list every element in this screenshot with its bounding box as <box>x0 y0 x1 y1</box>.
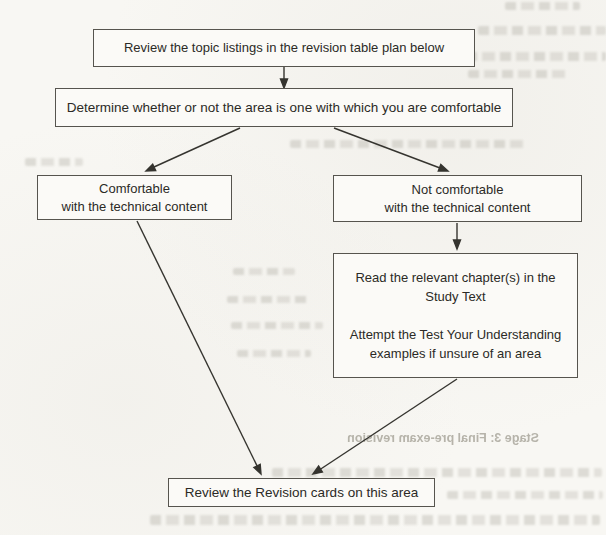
flow-node-not-comfortable: Not comfortable with the technical conte… <box>333 175 582 222</box>
flow-node-label-line: Attempt the Test Your Understanding <box>350 325 562 344</box>
flow-node-review-revision-cards: Review the Revision cards on this area <box>168 478 435 507</box>
arrow-read-to-cards <box>320 379 457 470</box>
flow-node-label: Determine whether or not the area is one… <box>67 99 501 117</box>
flow-node-label-line: Not comfortable <box>412 181 504 199</box>
arrow-determine-to-comfortable <box>154 128 240 167</box>
arrow-determine-to-not-comfortable <box>334 128 440 168</box>
flow-node-comfortable: Comfortable with the technical content <box>37 175 232 220</box>
flow-node-label: Review the topic listings in the revisio… <box>124 39 444 57</box>
flow-node-determine-comfortable: Determine whether or not the area is one… <box>55 88 513 127</box>
flow-node-label-line: Comfortable <box>99 180 170 198</box>
flow-node-label-line: examples if unsure of an area <box>370 344 541 363</box>
flow-node-label-line: with the technical content <box>62 198 208 216</box>
flow-node-label-line: Read the relevant chapter(s) in the <box>355 268 555 287</box>
flow-node-label-line: Study Text <box>425 287 485 306</box>
arrow-comfortable-to-cards <box>137 221 257 467</box>
scanned-flowchart-page: Stage 3: Final pre-exam revision Review … <box>0 0 606 535</box>
flow-node-read-study-text: Read the relevant chapter(s) in the Stud… <box>333 253 578 378</box>
flow-node-review-topic-listings: Review the topic listings in the revisio… <box>93 29 475 67</box>
flow-node-label-line: with the technical content <box>385 199 531 217</box>
flow-node-label: Review the Revision cards on this area <box>185 484 418 502</box>
